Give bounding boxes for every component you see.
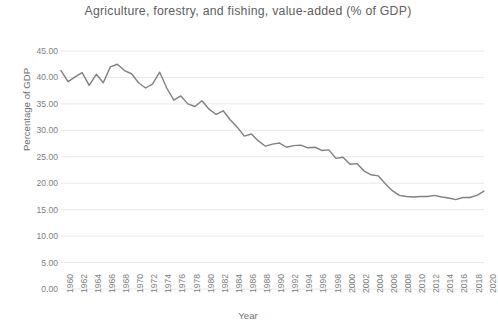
x-tick-label: 2020 — [488, 274, 498, 293]
x-tick-label: 1984 — [234, 274, 244, 293]
x-axis-title: Year — [0, 310, 496, 321]
x-tick-label: 2012 — [431, 274, 441, 293]
x-tick-label: 1980 — [206, 274, 216, 293]
x-tick-label: 2002 — [361, 274, 371, 293]
x-tick-label: 1978 — [192, 274, 202, 293]
x-tick-label: 2018 — [474, 274, 484, 293]
x-tick-label: 1972 — [149, 274, 159, 293]
x-tick-label: 1992 — [290, 274, 300, 293]
x-tick-label: 1964 — [93, 274, 103, 293]
x-tick-label: 2004 — [375, 274, 385, 293]
x-tick-label: 2006 — [389, 274, 399, 293]
x-tick-label: 1976 — [177, 274, 187, 293]
x-tick-label: 2008 — [403, 274, 413, 293]
y-axis-title: Percentage of GDP — [21, 40, 32, 180]
x-tick-label: 1990 — [276, 274, 286, 293]
x-tick-label: 1974 — [163, 274, 173, 293]
x-tick-label: 1998 — [333, 274, 343, 293]
x-tick-label: 2014 — [445, 274, 455, 293]
x-tick-label: 2010 — [417, 274, 427, 293]
x-tick-label: 2016 — [459, 274, 469, 293]
x-tick-label: 1960 — [65, 274, 75, 293]
x-tick-label: 1986 — [248, 274, 258, 293]
x-tick-label: 1996 — [318, 274, 328, 293]
x-tick-label: 1970 — [135, 274, 145, 293]
x-tick-label: 1994 — [304, 274, 314, 293]
x-tick-label: 1982 — [220, 274, 230, 293]
x-tick-label: 1966 — [107, 274, 117, 293]
x-tick-label: 1962 — [79, 274, 89, 293]
x-tick-label: 1968 — [121, 274, 131, 293]
x-tick-label: 2000 — [347, 274, 357, 293]
x-tick-label: 1988 — [262, 274, 272, 293]
